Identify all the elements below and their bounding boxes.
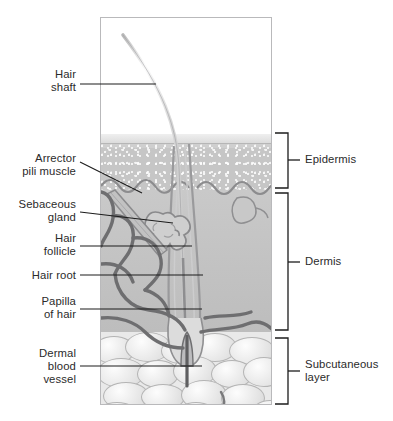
label-hair-follicle: Hair follicle — [44, 232, 76, 258]
label-sebaceous-gland: Sebaceous gland — [19, 198, 76, 224]
bracket-epidermis — [275, 133, 288, 188]
bracket-dermis — [275, 193, 288, 330]
label-dermis: Dermis — [305, 255, 341, 268]
label-epidermis: Epidermis — [305, 153, 356, 166]
leader-sebaceous-gland — [80, 212, 173, 223]
label-subcutaneous-layer: Subcutaneous layer — [305, 358, 378, 384]
bracket-subcutaneous-layer — [275, 338, 288, 404]
label-papilla-of-hair: Papilla of hair — [41, 295, 76, 321]
label-arrector-pili-muscle: Arrector pili muscle — [22, 152, 76, 178]
leader-arrector-pili-muscle — [80, 162, 142, 193]
diagram-canvas: Hair shaft Arrector pili muscle Sebaceou… — [0, 0, 393, 421]
label-hair-root: Hair root — [32, 269, 76, 282]
label-dermal-blood-vessel: Dermal blood vessel — [39, 347, 76, 387]
label-hair-shaft: Hair shaft — [51, 68, 76, 94]
